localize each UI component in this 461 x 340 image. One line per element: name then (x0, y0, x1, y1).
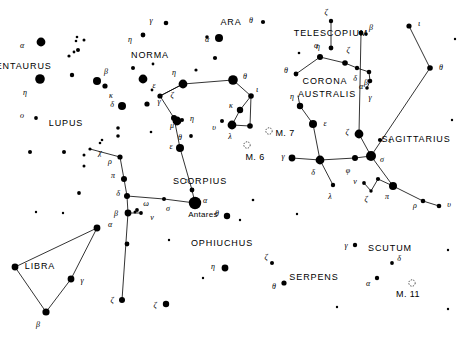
star-marker (144, 101, 149, 106)
star-marker (367, 70, 372, 75)
star-marker (389, 182, 397, 190)
star-marker (168, 239, 170, 241)
cluster-icon (244, 142, 250, 148)
star-marker (202, 277, 204, 279)
star-label: γ (368, 93, 371, 102)
cluster-icon (266, 128, 272, 134)
star-label: ζ (324, 8, 327, 17)
constellation-label: OPHIUCHUS (191, 238, 253, 248)
star-marker (176, 144, 184, 152)
star-marker (309, 120, 317, 128)
star-label: ζ (346, 46, 349, 55)
star-label: γ (80, 276, 83, 285)
star-label: ν (150, 213, 154, 222)
star-label: δ (311, 168, 315, 177)
star-label: β (114, 209, 118, 218)
star-marker (447, 249, 449, 251)
star-marker (68, 276, 75, 283)
star-label: γ (149, 16, 152, 25)
star-label: κ (229, 101, 233, 110)
constellation-line (371, 156, 439, 206)
constellation-label: AUSTRALIS (298, 89, 356, 99)
star-label: ε (152, 81, 155, 90)
star-label: ρ (108, 157, 112, 166)
star-label: ν (353, 177, 357, 186)
star-marker (12, 264, 19, 271)
star-label: χ (98, 148, 102, 157)
star-label: ε (323, 119, 326, 128)
star-marker (281, 280, 286, 285)
star-marker (447, 308, 449, 310)
star-label: γ (157, 97, 160, 106)
star-label: α (359, 82, 363, 91)
star-marker (75, 40, 78, 43)
star-label: α (108, 220, 112, 229)
star-label: υ (212, 123, 216, 132)
star-marker (37, 38, 46, 47)
star-label: ω (143, 199, 149, 208)
star-label: κ (109, 91, 113, 100)
star-marker (42, 308, 49, 315)
star-marker (194, 68, 197, 71)
star-marker (73, 51, 76, 54)
star-label: λ (228, 132, 231, 141)
star-label: δ (116, 189, 120, 198)
star-marker (261, 20, 265, 24)
constellation-label: LUPUS (49, 118, 84, 128)
star-marker (289, 155, 296, 162)
star-marker (70, 73, 74, 77)
star-marker (34, 116, 38, 120)
star-marker (270, 261, 274, 265)
star-marker (118, 102, 126, 110)
star-marker (77, 191, 81, 195)
star-label: ζ (364, 195, 367, 204)
star-marker (421, 199, 426, 204)
star-marker (179, 80, 188, 89)
star-label: θ (284, 66, 288, 75)
constellation-label: ARA (220, 17, 241, 27)
constellation-label: SCORPIUS (173, 176, 227, 186)
star-marker (164, 21, 169, 26)
constellation-label: CORONA (303, 76, 348, 86)
star-label: υ (447, 200, 451, 209)
constellation-label: LIBRA (25, 261, 56, 271)
star-label: β (364, 78, 368, 87)
sky-canvas (0, 0, 461, 340)
star-marker (237, 107, 243, 113)
star-marker (94, 225, 101, 232)
star-marker (189, 197, 201, 209)
star-label: η (290, 92, 294, 101)
star-marker (298, 52, 301, 55)
star-marker (67, 54, 70, 57)
star-marker (375, 276, 379, 280)
deep-sky-object-label: M. 6 (245, 152, 264, 162)
star-marker (228, 121, 237, 130)
star-label: ι (256, 85, 258, 94)
constellation-line (122, 213, 128, 300)
star-label: δ (110, 100, 114, 109)
star-label: θ (439, 63, 443, 72)
constellation-label: SCUTUM (368, 243, 412, 253)
star-marker (451, 119, 453, 121)
star-label: δ (397, 254, 401, 263)
star-marker (247, 123, 253, 129)
constellation-label: SERPENS (289, 272, 338, 282)
star-marker (297, 103, 303, 109)
star-label: ε (169, 142, 172, 151)
constellation-label: NORMA (131, 50, 169, 60)
star-marker (353, 243, 357, 247)
star-label: ρ (413, 201, 417, 210)
star-marker (352, 155, 358, 161)
star-marker (355, 66, 359, 70)
star-chart: αηβκεδγοηθχγηαθζαβθηζδβαγηεδγλφστζιθπνζρ… (0, 0, 461, 340)
star-label: ζ (110, 296, 113, 305)
constellation-label: SAGITTARIUS (381, 134, 450, 144)
star-label: γ (344, 241, 347, 250)
star-marker (317, 54, 323, 60)
star-marker (220, 119, 224, 123)
star-marker (141, 33, 146, 38)
star-marker (222, 265, 229, 272)
star-label: σ (380, 155, 384, 164)
star-label: η (211, 262, 215, 271)
star-marker (102, 83, 107, 88)
